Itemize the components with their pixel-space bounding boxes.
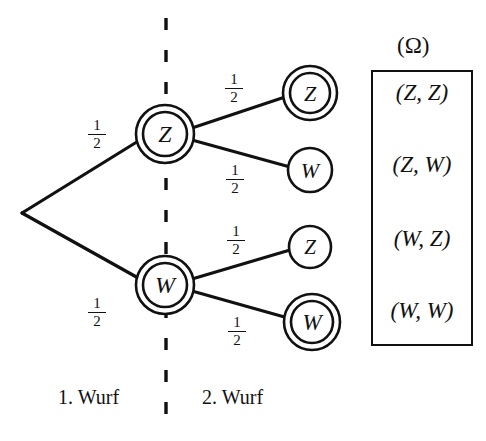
fraction-numerator: 1 — [86, 296, 108, 311]
outcome-wz: (W, Z) — [371, 226, 473, 252]
fraction-numerator: 1 — [224, 163, 246, 178]
fraction-denominator: 2 — [225, 242, 247, 257]
node-w-first-throw[interactable]: W — [136, 256, 194, 314]
node-ww-second-throw[interactable]: W — [284, 294, 340, 350]
edge-probability-w-z: 1 2 — [225, 224, 247, 258]
fraction-numerator: 1 — [225, 224, 247, 239]
node-zz-second-throw[interactable]: Z — [283, 66, 337, 120]
node-ww-label: W — [302, 310, 323, 335]
fraction-numerator: 1 — [223, 72, 245, 87]
edge-probability-z-w: 1 2 — [224, 163, 246, 197]
fraction-denominator: 2 — [86, 136, 108, 151]
edge-root-to-z — [22, 140, 140, 213]
node-wz-second-throw[interactable]: Z — [289, 226, 331, 268]
edge-probability-z-z: 1 2 — [223, 72, 245, 106]
edge-probability-w-w: 1 2 — [226, 315, 248, 349]
sample-space-title: (Ω) — [397, 33, 429, 59]
edge-group-from-z — [192, 97, 290, 167]
edge-group-from-w — [192, 250, 290, 318]
edge-group-level1 — [22, 140, 140, 279]
node-w-label: W — [155, 272, 177, 298]
fraction-denominator: 2 — [223, 90, 245, 105]
edge-root-to-w — [22, 213, 140, 279]
node-wz-label: Z — [304, 235, 316, 259]
stage-label-second-throw: 2. Wurf — [202, 386, 263, 409]
node-zw-second-throw[interactable]: W — [288, 148, 332, 192]
outcome-zw: (Z, W) — [371, 152, 473, 178]
stage-label-first-throw: 1. Wurf — [58, 386, 119, 409]
fraction-denominator: 2 — [86, 314, 108, 329]
fraction-numerator: 1 — [86, 118, 108, 133]
fraction-denominator: 2 — [224, 181, 246, 196]
node-zw-label: W — [301, 158, 321, 183]
edge-probability-root-w: 1 2 — [86, 296, 108, 330]
outcome-zz: (Z, Z) — [371, 80, 473, 106]
node-z-first-throw[interactable]: Z — [136, 105, 194, 163]
probability-tree-diagram: Z W Z W Z W 1 — [0, 0, 486, 441]
fraction-numerator: 1 — [226, 315, 248, 330]
fraction-denominator: 2 — [226, 333, 248, 348]
node-zz-label: Z — [304, 81, 317, 106]
node-z-label: Z — [158, 121, 172, 147]
outcome-ww: (W, W) — [371, 298, 473, 324]
edge-probability-root-z: 1 2 — [86, 118, 108, 152]
